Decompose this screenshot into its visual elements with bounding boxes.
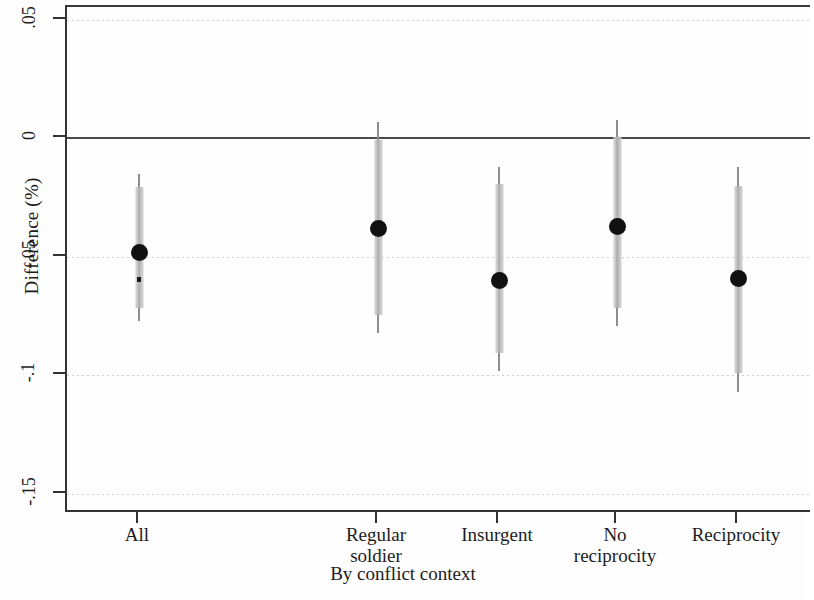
x-axis-tick	[136, 512, 138, 523]
y-axis-tick-label: 0	[0, 125, 58, 146]
data-point-marker	[131, 244, 148, 261]
zero-reference-line	[67, 137, 810, 139]
y-axis-tick-label: -.15	[0, 481, 58, 502]
gridline-y	[67, 257, 810, 258]
data-point-marker	[491, 272, 508, 289]
data-point-marker	[730, 270, 747, 287]
x-axis-category-label: All	[57, 524, 217, 545]
x-axis-category-label-line: Reciprocity	[656, 524, 814, 545]
plot-area	[65, 5, 810, 512]
x-axis-tick	[496, 512, 498, 523]
y-axis-tick-label-text: -.05	[19, 240, 40, 269]
x-axis-tick	[614, 512, 616, 523]
gridline-y	[67, 494, 810, 495]
data-point-marker	[370, 220, 387, 237]
y-axis-tick-label: -.05	[0, 244, 58, 265]
confidence-interval-band	[495, 184, 504, 353]
x-axis-tick	[375, 512, 377, 523]
x-axis-title: By conflict context	[0, 563, 806, 585]
y-axis-tick-label-text: 0	[19, 131, 40, 140]
gridline-y	[67, 20, 810, 21]
x-axis-tick	[735, 512, 737, 523]
x-axis-category-label-line: All	[57, 524, 217, 545]
y-axis-title: Difference (%)	[21, 126, 43, 346]
data-point-marker	[609, 218, 626, 235]
y-axis-tick-label: -.1	[0, 362, 58, 383]
y-axis-tick-label: .05	[0, 7, 58, 28]
gridline-y	[67, 375, 810, 376]
x-axis-category-label: Reciprocity	[656, 524, 814, 545]
y-axis-tick-label-text: -.15	[19, 477, 40, 506]
y-axis-tick-label-text: .05	[19, 6, 40, 29]
y-axis-tick-label-text: -.1	[19, 363, 40, 383]
secondary-estimate-mark	[137, 277, 141, 282]
